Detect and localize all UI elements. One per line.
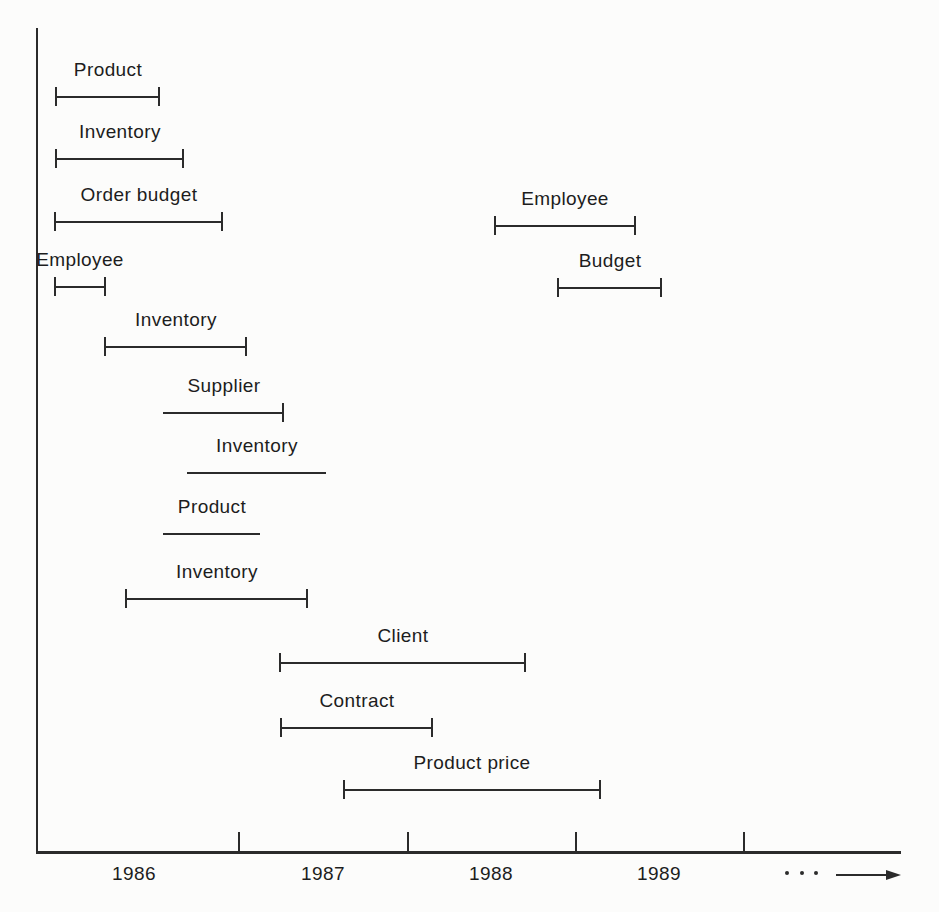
bar-start-tick-employee [54, 277, 56, 296]
bar-line-product-price [343, 789, 601, 791]
x-axis-line [36, 851, 901, 854]
bar-line-budget [557, 287, 662, 289]
bar-start-tick-product [55, 87, 57, 106]
bar-line-product [163, 533, 260, 535]
axis-continuation-dot [814, 871, 818, 875]
bar-end-tick-employee [634, 216, 636, 235]
bar-start-tick-client [279, 653, 281, 672]
bar-end-tick-inventory [306, 589, 308, 608]
x-axis-tick [238, 832, 240, 851]
bar-end-tick-employee [104, 277, 106, 296]
bar-line-order-budget [54, 221, 223, 223]
x-axis-tick [575, 832, 577, 851]
bar-end-tick-supplier [282, 403, 284, 422]
x-axis-year-label: 1988 [451, 864, 531, 884]
axis-continuation-dot [785, 871, 789, 875]
bar-label-inventory: Inventory [117, 562, 317, 582]
bar-end-tick-contract [431, 718, 433, 737]
bar-start-tick-contract [280, 718, 282, 737]
bar-label-inventory: Inventory [76, 310, 276, 330]
bar-line-inventory [125, 598, 308, 600]
bar-label-budget: Budget [510, 251, 710, 271]
x-axis-year-label: 1989 [619, 864, 699, 884]
bar-line-inventory [55, 158, 184, 160]
bar-end-tick-client [524, 653, 526, 672]
bar-label-client: Client [303, 626, 503, 646]
bar-start-tick-inventory [125, 589, 127, 608]
bar-line-inventory [104, 346, 247, 348]
time-arrow-shaft [836, 874, 888, 876]
y-axis-line [36, 28, 38, 854]
bar-label-inventory: Inventory [20, 122, 220, 142]
bar-end-tick-product-price [599, 780, 601, 799]
bar-label-contract: Contract [257, 691, 457, 711]
bar-end-tick-inventory [245, 337, 247, 356]
bar-end-tick-inventory [182, 149, 184, 168]
bar-line-client [279, 662, 526, 664]
bar-start-tick-inventory [55, 149, 57, 168]
bar-start-tick-product-price [343, 780, 345, 799]
x-axis-year-label: 1986 [94, 864, 174, 884]
time-arrow-head-icon [886, 870, 901, 880]
bar-label-supplier: Supplier [124, 376, 324, 396]
axis-continuation-dot [800, 871, 804, 875]
bar-line-employee [54, 286, 106, 288]
bar-line-contract [280, 727, 433, 729]
bar-label-order-budget: Order budget [39, 185, 239, 205]
bar-end-tick-product [158, 87, 160, 106]
bar-label-product-price: Product price [372, 753, 572, 773]
bar-start-tick-employee [494, 216, 496, 235]
bar-label-product: Product [8, 60, 208, 80]
bar-label-product: Product [112, 497, 312, 517]
bar-label-inventory: Inventory [157, 436, 357, 456]
bar-line-product [55, 96, 160, 98]
bar-line-supplier [163, 412, 284, 414]
timeline-figure: 1986198719881989ProductInventoryOrder bu… [0, 0, 939, 912]
bar-line-employee [494, 225, 636, 227]
x-axis-tick [407, 832, 409, 851]
bar-end-tick-order-budget [221, 212, 223, 231]
x-axis-tick [743, 832, 745, 851]
bar-end-tick-budget [660, 278, 662, 297]
x-axis-year-label: 1987 [283, 864, 363, 884]
bar-label-employee: Employee [0, 250, 180, 270]
bar-start-tick-budget [557, 278, 559, 297]
bar-start-tick-inventory [104, 337, 106, 356]
bar-label-employee: Employee [465, 189, 665, 209]
bar-start-tick-order-budget [54, 212, 56, 231]
bar-line-inventory [187, 472, 326, 474]
